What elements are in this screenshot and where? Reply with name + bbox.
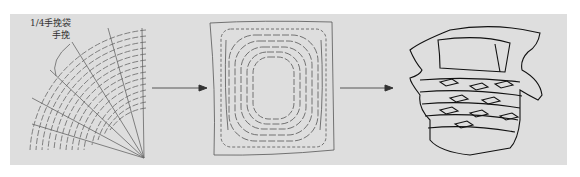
arrow-1	[152, 85, 207, 91]
diagram-drawing	[0, 0, 580, 177]
finished-basket	[410, 27, 542, 155]
quarter-pattern	[30, 28, 146, 158]
square-felt	[210, 21, 334, 155]
arrow-2	[340, 85, 393, 91]
